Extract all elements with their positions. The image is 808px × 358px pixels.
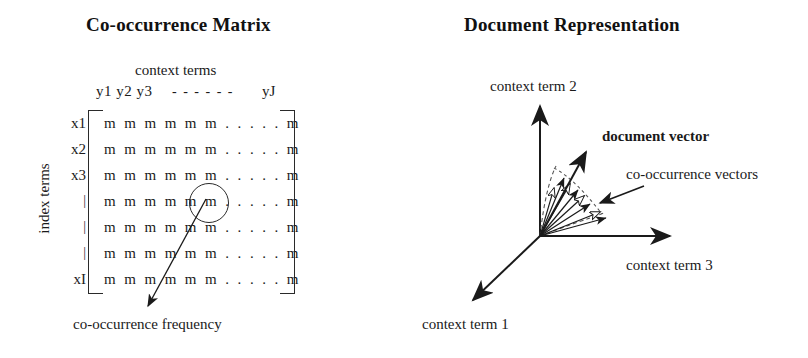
document-representation-panel: Document Representation: [404, 0, 808, 358]
document-vector-label: document vector: [602, 128, 709, 145]
co-occurrence-vectors-label: co-occurrence vectors: [626, 166, 758, 183]
matrix-annotation-overlay: [0, 0, 404, 358]
co-occurrence-vector: [540, 190, 578, 236]
co-occurrence-frequency-caption: co-occurrence frequency: [73, 316, 222, 333]
co-occurrence-matrix-panel: Co-occurrence Matrix context terms y1 y2…: [0, 0, 404, 358]
frequency-pointer-arrow: [148, 199, 206, 306]
axis-context-term-1: [473, 236, 540, 300]
axis-label-context-term-1: context term 1: [422, 316, 509, 333]
co-occurrence-vectors-leader-arrow: [600, 186, 644, 203]
axis-label-context-term-3: context term 3: [626, 257, 713, 274]
axis-label-context-term-2: context term 2: [490, 78, 577, 95]
cone-envelope-dotted-arc: [554, 168, 602, 214]
figure-canvas: Co-occurrence Matrix context terms y1 y2…: [0, 0, 808, 358]
